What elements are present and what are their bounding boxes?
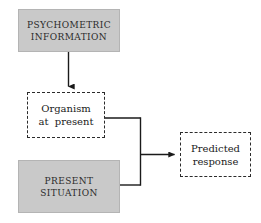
node-psychometric-information: PSYCHOMETRIC INFORMATION xyxy=(18,9,120,52)
node-label-line2: SITUATION xyxy=(40,187,97,199)
node-label-line2: INFORMATION xyxy=(31,31,107,43)
node-label-line1: Predicted xyxy=(191,142,240,155)
node-present-situation: PRESENT SITUATION xyxy=(18,160,120,213)
node-label-line2: at present xyxy=(39,115,94,128)
diagram-canvas: PSYCHOMETRIC INFORMATION Organism at pre… xyxy=(0,0,261,223)
node-label-line1: PSYCHOMETRIC xyxy=(27,19,111,31)
node-predicted-response: Predicted response xyxy=(180,132,251,177)
node-label-line1: PRESENT xyxy=(45,175,94,187)
node-organism-at-present: Organism at present xyxy=(27,92,105,138)
node-label-line1: Organism xyxy=(41,102,91,115)
node-label-line2: response xyxy=(193,155,239,168)
